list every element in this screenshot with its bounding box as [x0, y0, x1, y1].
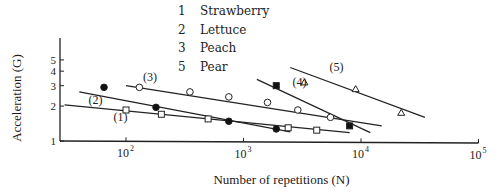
- x-axis-label: Number of repetitions (N): [0, 172, 503, 188]
- y-tick-label: 2: [51, 100, 57, 112]
- y-tick-label: 1: [51, 135, 57, 147]
- legend-label: Strawberry: [200, 2, 269, 21]
- filled-square-marker: [347, 123, 353, 129]
- y-tick-label: 5: [51, 54, 57, 66]
- legend-item-pear: 5Pear: [178, 58, 269, 77]
- series-label: (1): [114, 110, 128, 124]
- x-axis-line: [60, 141, 479, 143]
- open-circle-marker: [226, 94, 233, 101]
- fit-line-2: [79, 92, 290, 132]
- open-circle-marker: [327, 114, 334, 121]
- x-tick-exponent: 2: [130, 144, 134, 153]
- filled-circle-marker: [226, 118, 233, 125]
- legend-item-strawberry: 1Strawberry: [178, 2, 269, 21]
- legend-label: Lettuce: [200, 21, 246, 40]
- legend-label: Pear: [200, 58, 228, 77]
- x-tick-exponent: 4: [365, 145, 369, 154]
- legend-number: 3: [178, 39, 200, 58]
- open-square-marker: [158, 111, 164, 117]
- series-label: (3): [143, 70, 157, 84]
- open-circle-marker: [295, 107, 302, 114]
- legend-number: 2: [178, 21, 200, 40]
- y-tick-label: 3: [51, 80, 57, 92]
- x-tick-exponent: 5: [483, 146, 487, 155]
- open-square-marker: [285, 125, 291, 131]
- x-tick-label: 10: [470, 148, 482, 162]
- y-tick-label: 4: [51, 65, 57, 77]
- x-tick-label: 10: [235, 147, 247, 161]
- filled-square-marker: [273, 83, 279, 89]
- filled-circle-marker: [101, 84, 108, 91]
- open-circle-marker: [187, 89, 194, 96]
- legend-label: Peach: [200, 39, 236, 58]
- filled-circle-marker: [153, 104, 160, 111]
- filled-circle-marker: [273, 126, 280, 133]
- open-triangle-marker: [398, 109, 405, 115]
- x-tick-label: 10: [352, 147, 364, 161]
- series-label: (2): [88, 93, 102, 107]
- open-square-marker: [314, 127, 320, 133]
- open-circle-marker: [264, 99, 271, 106]
- legend: 1Strawberry 2Lettuce 3Peach 5Pear: [178, 2, 269, 76]
- open-circle-marker: [136, 84, 143, 91]
- fit-line-5: [290, 68, 425, 118]
- legend-item-lettuce: 2Lettuce: [178, 21, 269, 40]
- legend-number: 1: [178, 2, 200, 21]
- open-triangle-marker: [352, 86, 359, 92]
- y-axis-label: Acceleration (G): [9, 43, 25, 153]
- x-tick-label: 10: [117, 146, 129, 160]
- open-square-marker: [205, 116, 211, 122]
- legend-number: 5: [178, 58, 200, 77]
- series-label: (5): [330, 60, 344, 74]
- legend-item-peach: 3Peach: [178, 39, 269, 58]
- x-tick-exponent: 3: [248, 145, 252, 154]
- series-label: (4): [293, 75, 307, 89]
